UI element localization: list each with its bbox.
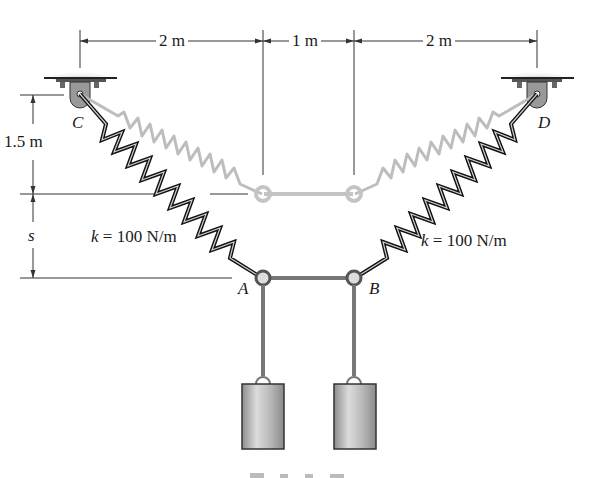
joint-label-A: A	[238, 280, 248, 297]
ceiling-support-left	[44, 66, 117, 108]
block-right	[334, 384, 376, 449]
spring-right	[355, 94, 537, 278]
top-dimension-lines	[80, 30, 537, 175]
caption-partial	[250, 473, 344, 478]
spring-label-left: k = 100 N/m	[91, 228, 177, 245]
dim-left-s: s	[28, 227, 35, 244]
ceiling-support-right	[501, 66, 574, 108]
dim-top-middle: 1 m	[289, 32, 321, 49]
spring-constant-symbol-right: k	[421, 231, 429, 250]
joint-label-B: B	[369, 280, 379, 297]
unstretched-chain	[256, 187, 361, 201]
spring-constant-value-left: = 100 N/m	[103, 227, 177, 246]
spring-constant-value-right: = 100 N/m	[433, 231, 507, 250]
joint-B	[347, 271, 361, 285]
spring-system-diagram	[0, 0, 597, 478]
spring-left	[80, 94, 262, 278]
dim-top-right: 2 m	[423, 32, 455, 49]
unstretched-spring-left	[80, 94, 262, 194]
dim-top-left: 2 m	[156, 32, 188, 49]
support-label-C: C	[72, 114, 83, 131]
dim-left-1-5m: 1.5 m	[4, 133, 43, 150]
support-label-D: D	[538, 114, 550, 131]
spring-constant-symbol-left: k	[91, 227, 99, 246]
unstretched-spring-right	[355, 94, 537, 194]
joint-A	[256, 271, 270, 285]
spring-label-right: k = 100 N/m	[421, 232, 507, 249]
block-left	[242, 384, 284, 449]
